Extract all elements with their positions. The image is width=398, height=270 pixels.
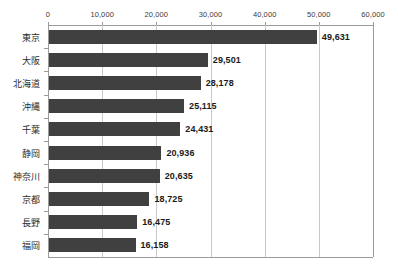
y-category-label: 京都: [22, 193, 40, 206]
bar-row: 16,158: [48, 238, 373, 252]
y-category-label: 東京: [22, 30, 40, 43]
bar-value-label: 16,475: [142, 217, 170, 227]
x-tick-label: 40,000: [253, 10, 277, 19]
bar-chart: 010,00020,00030,00040,00050,00060,000 49…: [0, 0, 398, 270]
x-tick-label: 30,000: [199, 10, 223, 19]
bar-value-label: 24,431: [185, 124, 213, 134]
y-category-label: 静岡: [22, 146, 40, 159]
bar-row: 49,631: [48, 30, 373, 44]
bars-layer: 49,63129,50128,17825,11524,43120,93620,6…: [48, 25, 373, 257]
bar: [48, 30, 317, 44]
bar-row: 24,431: [48, 122, 373, 136]
x-tick-label: 0: [46, 10, 50, 19]
bar-row: 29,501: [48, 53, 373, 67]
bar-row: 28,178: [48, 76, 373, 90]
bar: [48, 238, 136, 252]
plot-bottom-border: [48, 257, 373, 258]
x-tick-label: 20,000: [145, 10, 169, 19]
bar-value-label: 25,115: [189, 101, 217, 111]
bar: [48, 146, 161, 160]
bar: [48, 192, 149, 206]
bar: [48, 169, 160, 183]
y-axis-category-labels: 東京大阪北海道沖縄千葉静岡神奈川京都長野福岡: [0, 25, 44, 257]
bar: [48, 122, 180, 136]
bar: [48, 53, 208, 67]
bar-value-label: 29,501: [213, 55, 241, 65]
y-axis-line: [48, 25, 49, 257]
bar: [48, 99, 184, 113]
bar-row: 20,936: [48, 146, 373, 160]
bar-row: 16,475: [48, 215, 373, 229]
x-tick-label: 50,000: [307, 10, 331, 19]
y-category-label: 大阪: [22, 53, 40, 66]
bar-row: 18,725: [48, 192, 373, 206]
bar-value-label: 20,635: [165, 171, 193, 181]
y-category-label: 長野: [22, 216, 40, 229]
y-category-label: 千葉: [22, 123, 40, 136]
bar-row: 25,115: [48, 99, 373, 113]
x-tick-label: 60,000: [361, 10, 385, 19]
gridline: [373, 25, 374, 257]
bar: [48, 215, 137, 229]
bar-value-label: 28,178: [206, 78, 234, 88]
y-category-label: 神奈川: [13, 169, 40, 182]
bar-value-label: 20,936: [166, 148, 194, 158]
y-category-label: 北海道: [13, 77, 40, 90]
plot-area: 49,63129,50128,17825,11524,43120,93620,6…: [48, 25, 373, 257]
bar-value-label: 16,158: [141, 240, 169, 250]
x-tick-label: 10,000: [90, 10, 114, 19]
bar-row: 20,635: [48, 169, 373, 183]
bar-value-label: 49,631: [322, 32, 350, 42]
y-category-label: 福岡: [22, 239, 40, 252]
y-category-label: 沖縄: [22, 100, 40, 113]
bar-value-label: 18,725: [154, 194, 182, 204]
bar: [48, 76, 201, 90]
